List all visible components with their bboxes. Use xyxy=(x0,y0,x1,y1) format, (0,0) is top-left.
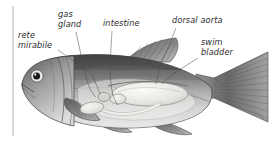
internal-organs-group xyxy=(78,78,196,120)
label-swim-bladder-line1: swim xyxy=(201,37,223,47)
label-intestine: intestine xyxy=(103,18,140,28)
labels-group: gas gland rete mirabile intestine dorsal… xyxy=(18,9,234,57)
fish-anatomy-figure: gas gland rete mirabile intestine dorsal… xyxy=(0,0,274,141)
label-dorsal-aorta: dorsal aorta xyxy=(172,15,223,25)
pupil xyxy=(33,73,40,80)
label-gas-gland-line1: gas xyxy=(58,9,73,19)
label-rete-mirabile-line2: mirabile xyxy=(18,40,52,50)
fish-illustration: gas gland rete mirabile intestine dorsal… xyxy=(0,0,274,141)
label-gas-gland-line2: gland xyxy=(58,19,82,29)
label-swim-bladder-line2: bladder xyxy=(201,47,234,57)
label-rete-mirabile-line1: rete xyxy=(18,30,35,40)
eye-highlight xyxy=(34,74,36,76)
gas-gland xyxy=(110,94,126,104)
fish-head xyxy=(22,56,74,126)
